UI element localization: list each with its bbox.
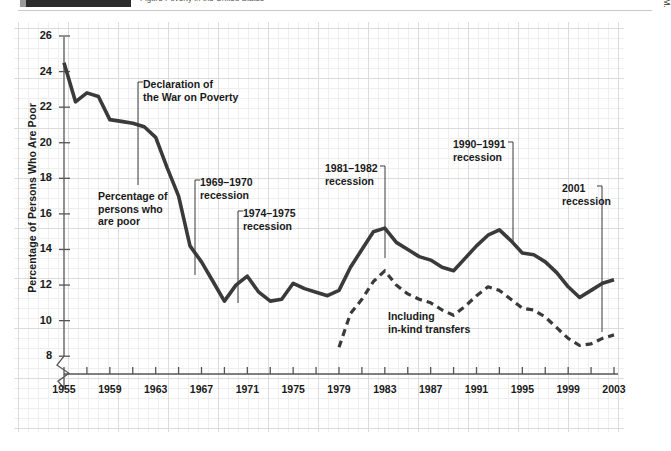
x-tick-label: 1963 bbox=[136, 383, 176, 395]
x-tick-label: 1975 bbox=[273, 383, 313, 395]
annotation-rec-1990: 1990–1991 recession bbox=[453, 138, 506, 163]
x-tick-label: 1999 bbox=[548, 383, 588, 395]
annotation-rec-2001: 2001 recession bbox=[562, 182, 611, 207]
x-tick-label: 2003 bbox=[594, 383, 634, 395]
y-tick-label: 26 bbox=[30, 29, 52, 41]
y-tick-label: 14 bbox=[30, 242, 52, 254]
annotation-rec-1969: 1969–1970 recession bbox=[200, 176, 253, 201]
header-black-block bbox=[26, 0, 131, 7]
series-line-in-kind bbox=[339, 271, 614, 348]
page-header-strip: Figure Poverty in the United States bbox=[0, 0, 668, 14]
x-tick-label: 1959 bbox=[90, 383, 130, 395]
chart-container: Percentage of Persons Who Are Poor 81012… bbox=[14, 22, 624, 432]
x-tick-label: 1983 bbox=[365, 383, 405, 395]
header-divider bbox=[18, 10, 652, 11]
y-tick-label: 12 bbox=[30, 278, 52, 290]
annotation-series-label-dashed: Including in-kind transfers bbox=[388, 310, 470, 335]
y-tick-label: 16 bbox=[30, 207, 52, 219]
annotation-declaration: Declaration of the War on Poverty bbox=[143, 78, 238, 103]
annotation-rec-1981: 1981–1982 recession bbox=[325, 162, 378, 187]
annotation-rec-1974: 1974–1975 recession bbox=[243, 207, 296, 232]
y-tick-label: 18 bbox=[30, 171, 52, 183]
header-title: Figure Poverty in the United States bbox=[140, 0, 264, 3]
x-tick-label: 1967 bbox=[182, 383, 222, 395]
x-tick-label: 1987 bbox=[411, 383, 451, 395]
source-note: SOURCE: For 1959–2002, U.S. Bureau of th… bbox=[655, 0, 671, 22]
y-tick-label: 22 bbox=[30, 100, 52, 112]
y-tick-label: 10 bbox=[30, 314, 52, 326]
y-tick-label: 8 bbox=[30, 349, 52, 361]
y-tick-label: 24 bbox=[30, 65, 52, 77]
x-tick-label: 1979 bbox=[319, 383, 359, 395]
annotation-series-label-solid: Percentage of persons who are poor bbox=[98, 190, 167, 228]
x-tick-label: 1971 bbox=[227, 383, 267, 395]
x-tick-label: 1955 bbox=[44, 383, 84, 395]
y-tick-label: 20 bbox=[30, 136, 52, 148]
x-tick-label: 1995 bbox=[502, 383, 542, 395]
x-tick-label: 1991 bbox=[457, 383, 497, 395]
